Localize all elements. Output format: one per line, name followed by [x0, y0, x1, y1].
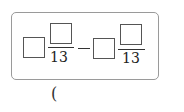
term1-denominator: 13	[50, 50, 68, 64]
term2-numerator-input[interactable]	[120, 24, 142, 45]
term2-whole-input[interactable]	[93, 38, 115, 59]
term1-fraction-bar	[48, 47, 74, 48]
minus-sign	[78, 48, 90, 49]
term1-whole-input[interactable]	[23, 37, 45, 58]
answer-open-paren: (	[51, 86, 57, 102]
term2-denominator: 13	[122, 51, 140, 65]
term1-numerator-input[interactable]	[50, 23, 72, 44]
